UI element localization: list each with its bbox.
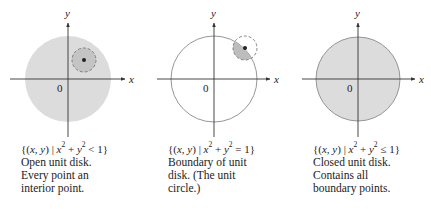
interior-point <box>82 58 86 62</box>
y-axis-label: y <box>64 7 70 19</box>
unit-disk-diagrams: x y 0 x y 0 x y 0 <box>0 0 431 140</box>
origin-label: 0 <box>203 82 209 94</box>
origin-label: 0 <box>347 82 353 94</box>
caption-line: Boundary of unit <box>168 156 255 169</box>
x-axis-label: x <box>128 73 134 85</box>
panel-open-disk: x y 0 <box>10 7 134 137</box>
caption-line: disk. (The unit <box>168 169 255 182</box>
boundary-point <box>243 46 247 50</box>
panel-unit-circle: x y 0 <box>157 7 279 137</box>
x-axis-label: x <box>418 73 424 85</box>
caption-line: Closed unit disk. <box>313 156 400 169</box>
set-expression: {(x, y) | x2 + y2 ≤ 1} <box>313 143 400 156</box>
caption-line: Contains all <box>313 169 400 182</box>
y-axis-label: y <box>354 7 360 19</box>
caption-line: Open unit disk. <box>21 156 108 169</box>
set-expression: {(x, y) | x2 + y2 < 1} <box>21 143 108 156</box>
caption-closed-disk: {(x, y) | x2 + y2 ≤ 1} Closed unit disk.… <box>313 143 400 195</box>
caption-open-disk: {(x, y) | x2 + y2 < 1} Open unit disk. E… <box>21 143 108 195</box>
caption-line: boundary points. <box>313 182 400 195</box>
set-expression: {(x, y) | x2 + y2 = 1} <box>168 143 255 156</box>
x-axis-label: x <box>273 73 279 85</box>
caption-line: circle.) <box>168 182 255 195</box>
y-axis-label: y <box>210 7 216 19</box>
caption-line: interior point. <box>21 182 108 195</box>
caption-line: Every point an <box>21 169 108 182</box>
origin-label: 0 <box>57 82 63 94</box>
caption-unit-circle: {(x, y) | x2 + y2 = 1} Boundary of unit … <box>168 143 255 195</box>
panel-closed-disk: x y 0 <box>302 7 424 137</box>
